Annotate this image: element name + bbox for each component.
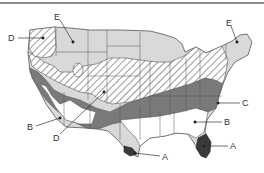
label-d-northwest: D xyxy=(8,33,15,43)
label-a-florida: A xyxy=(230,141,236,151)
us-zone-map: E D E C B A A B D xyxy=(0,0,264,173)
zone-d-northwest xyxy=(29,27,56,58)
label-c-east: C xyxy=(242,98,249,108)
label-a-texas: A xyxy=(162,152,168,162)
label-d-southwest: D xyxy=(53,133,60,143)
zone-d-patch xyxy=(73,63,83,77)
label-b-southeast: B xyxy=(224,117,230,127)
label-e-northwest: E xyxy=(54,12,60,22)
label-e-northeast: E xyxy=(226,18,232,28)
label-b-california: B xyxy=(27,122,33,132)
